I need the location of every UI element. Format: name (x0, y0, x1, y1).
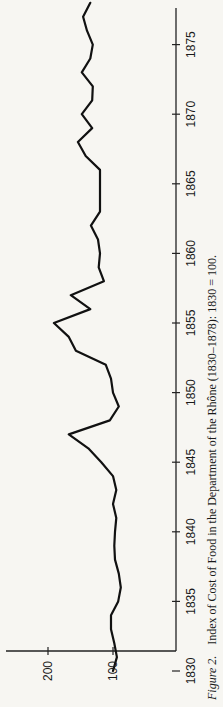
year-tick-label: 1840 (184, 518, 198, 545)
value-axis-ticks: 100200 (41, 647, 120, 681)
year-tick-label: 1865 (184, 170, 198, 197)
year-tick-label: 1845 (184, 449, 198, 476)
chart-figure: 1830183518401845185018551860186518701875… (0, 0, 223, 707)
caption-label: Figure 2. (205, 656, 219, 701)
value-tick-label: 200 (41, 661, 55, 681)
year-tick-label: 1830 (184, 657, 198, 684)
year-tick-label: 1835 (184, 588, 198, 615)
year-tick-label: 1850 (184, 379, 198, 406)
svg-text:Figure 2. Index of Cos: Figure 2. Index of Cost of Food in the D… (205, 255, 219, 701)
series-line (54, 3, 121, 671)
year-tick-label: 1875 (184, 31, 198, 58)
year-tick-label: 1855 (184, 309, 198, 336)
line-chart: 1830183518401845185018551860186518701875… (0, 0, 223, 707)
figure-caption: Figure 2. Index of Cost of Food in the D… (205, 255, 219, 701)
year-tick-label: 1870 (184, 101, 198, 128)
value-tick-label: 100 (106, 661, 120, 681)
chart-axes (6, 8, 176, 651)
caption-text: Index of Cost of Food in the Department … (205, 255, 219, 645)
year-tick-label: 1860 (184, 240, 198, 267)
